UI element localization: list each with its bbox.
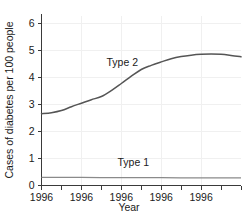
y-tick-label: 3 [29,98,35,110]
y-tick-label: 1 [29,152,35,164]
x-tick-label: 1996 [70,191,94,203]
y-tick-label: 4 [29,71,35,83]
chart-canvas: 0123456 19961996199619961996 Type 2Type … [0,0,248,216]
y-tick-label: 2 [29,125,35,137]
x-tick-label: 1996 [30,191,54,203]
y-axis-title: Cases of diabetes per 100 people [3,21,15,178]
plot-background [0,0,248,216]
series-label-type-2: Type 2 [107,56,139,68]
diabetes-line-chart: 0123456 19961996199619961996 Type 2Type … [0,0,248,216]
x-axis-title: Year [118,201,140,213]
y-tick-label: 5 [29,44,35,56]
series-label-type-1: Type 1 [118,156,150,168]
y-tick-label: 0 [29,179,35,191]
series-line-type-1 [42,177,242,178]
x-tick-label: 1996 [150,191,174,203]
y-tick-label: 6 [29,17,35,29]
x-tick-label: 1996 [189,191,213,203]
